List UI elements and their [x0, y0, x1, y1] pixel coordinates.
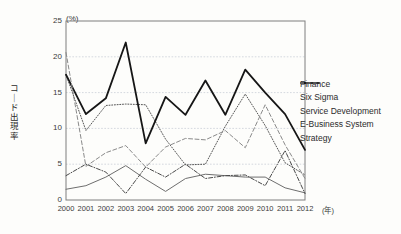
- legend-label: Service Development: [300, 105, 381, 118]
- series-line-service-development: [66, 42, 305, 149]
- legend-item-six-sigma: Six Sigma: [300, 91, 381, 104]
- y-tick-label: 15: [40, 88, 62, 97]
- y-tick-label: 0: [40, 195, 62, 204]
- y-tick-label: 10: [40, 123, 62, 132]
- y-tick-label: 20: [40, 52, 62, 61]
- chart-figure: (%) コ ｜ ド 出 現 率 2520151050 2000200120022…: [0, 0, 401, 234]
- legend-label: Six Sigma: [300, 91, 338, 104]
- y-tick-label: 5: [40, 159, 62, 168]
- legend-label: Strategy: [300, 132, 332, 145]
- legend-swatch-dashed: [300, 78, 320, 88]
- legend-item-strategy: Strategy: [300, 132, 381, 145]
- series-line-six-sigma: [66, 75, 305, 175]
- legend-label: E-Business System: [300, 118, 374, 131]
- legend-item-e-business-system: E-Business System: [300, 118, 381, 131]
- x-axis-unit-label: (年): [322, 204, 334, 215]
- series-line-e-business-system: [66, 151, 305, 194]
- legend-item-service-development: Service Development: [300, 105, 381, 118]
- y-tick-label: 25: [40, 16, 62, 25]
- x-tick-label: 2012: [290, 204, 320, 213]
- chart-legend: FinanceSix SigmaService DevelopmentE-Bus…: [300, 78, 381, 145]
